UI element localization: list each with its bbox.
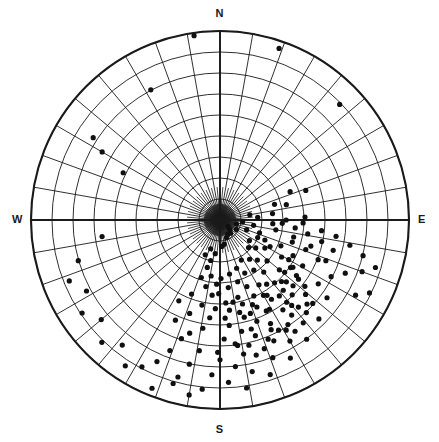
data-point xyxy=(247,238,252,243)
data-point xyxy=(121,170,126,175)
data-point xyxy=(167,348,172,353)
data-point xyxy=(240,219,245,224)
data-point xyxy=(304,337,309,342)
data-point xyxy=(277,293,282,298)
data-point xyxy=(216,291,221,296)
data-point xyxy=(246,343,251,348)
data-point xyxy=(224,235,229,240)
data-point xyxy=(254,304,259,309)
data-point xyxy=(256,282,261,287)
data-point xyxy=(100,149,105,154)
data-point xyxy=(226,285,231,290)
data-point xyxy=(304,301,309,306)
data-point xyxy=(316,316,321,321)
data-point xyxy=(171,381,176,386)
data-point xyxy=(242,271,247,276)
data-point xyxy=(244,284,249,289)
data-point xyxy=(262,245,267,250)
data-point xyxy=(246,245,251,250)
data-point xyxy=(284,279,289,284)
data-point xyxy=(280,307,285,312)
data-point xyxy=(227,271,232,276)
data-point xyxy=(333,234,338,239)
data-point xyxy=(303,292,308,297)
data-point xyxy=(278,243,283,248)
data-point xyxy=(303,247,308,252)
data-point xyxy=(234,222,239,227)
data-point xyxy=(255,257,260,262)
data-point xyxy=(208,246,213,251)
data-point xyxy=(272,280,277,285)
data-point xyxy=(179,336,184,341)
data-point xyxy=(284,300,289,305)
data-point xyxy=(290,292,295,297)
data-point xyxy=(84,288,89,293)
data-point xyxy=(282,270,287,275)
data-point xyxy=(176,298,181,303)
data-point xyxy=(219,244,224,249)
data-point xyxy=(268,321,273,326)
data-point xyxy=(301,320,306,325)
data-point xyxy=(293,225,298,230)
data-point xyxy=(235,279,240,284)
data-point xyxy=(208,258,213,263)
data-point xyxy=(223,300,228,305)
data-point xyxy=(264,282,269,287)
data-point xyxy=(300,263,305,268)
data-point xyxy=(329,274,334,279)
data-point xyxy=(319,239,324,244)
stereonet-plot-area xyxy=(0,0,439,442)
data-point xyxy=(289,312,294,317)
data-point xyxy=(239,257,244,262)
data-point xyxy=(273,227,278,232)
data-point xyxy=(173,318,178,323)
data-point xyxy=(233,341,238,346)
data-point xyxy=(248,311,253,316)
data-point xyxy=(123,363,128,368)
data-point xyxy=(319,228,324,233)
data-point xyxy=(284,202,289,207)
data-point xyxy=(279,254,284,259)
data-point xyxy=(222,336,227,341)
data-point xyxy=(191,33,196,38)
data-point xyxy=(292,329,297,334)
data-point xyxy=(230,300,235,305)
data-point xyxy=(234,227,239,232)
data-point xyxy=(241,351,246,356)
data-point xyxy=(270,221,275,226)
data-point xyxy=(209,372,214,377)
data-point xyxy=(226,380,231,385)
compass-label-south: S xyxy=(0,424,439,435)
data-point xyxy=(289,303,294,308)
data-point xyxy=(244,385,249,390)
data-point xyxy=(99,340,104,345)
data-point xyxy=(227,308,232,313)
data-point xyxy=(91,135,96,140)
data-point xyxy=(239,329,244,334)
data-point xyxy=(67,278,72,283)
data-point xyxy=(99,234,104,239)
data-point xyxy=(304,310,309,315)
truncated-caption xyxy=(10,437,340,441)
data-point xyxy=(247,257,252,262)
data-point xyxy=(205,265,210,270)
data-point xyxy=(197,348,202,353)
data-point xyxy=(272,202,277,207)
data-point xyxy=(253,333,258,338)
data-point xyxy=(237,310,242,315)
data-point xyxy=(240,301,245,306)
data-point xyxy=(303,188,308,193)
data-point xyxy=(207,315,212,320)
data-point xyxy=(270,211,275,216)
data-point xyxy=(203,252,208,257)
data-point xyxy=(203,284,208,289)
data-point xyxy=(324,295,329,300)
data-point xyxy=(218,276,223,281)
data-point xyxy=(323,258,328,263)
data-point xyxy=(359,269,364,274)
data-point xyxy=(305,231,310,236)
data-point xyxy=(268,372,273,377)
data-point xyxy=(279,279,284,284)
data-point xyxy=(270,355,275,360)
data-point xyxy=(149,386,154,391)
